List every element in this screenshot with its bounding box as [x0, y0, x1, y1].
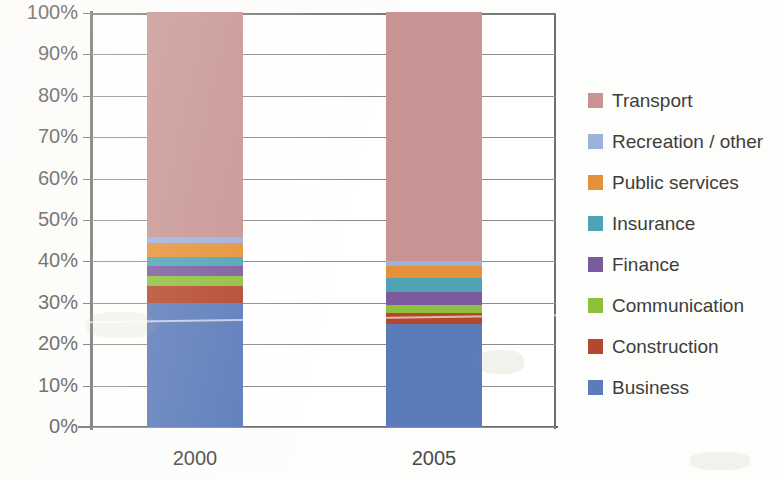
legend-swatch-icon-transport — [588, 93, 603, 108]
bar-segment-2005-recreation-other — [386, 261, 482, 266]
y-tick-label: 40% — [0, 250, 78, 270]
y-tick-label: 10% — [0, 375, 78, 395]
bar-segment-2000-business — [147, 302, 243, 427]
bar-segment-2000-transport — [147, 12, 243, 236]
bar-series-container — [91, 13, 556, 427]
bar-segment-2005-public-services — [386, 265, 482, 278]
y-tick-label-text: 90% — [4, 43, 78, 63]
y-tick-label-text: 30% — [4, 292, 78, 312]
y-tick-label-text: 10% — [4, 375, 78, 395]
bar-segment-2000-communication — [147, 275, 243, 286]
legend-swatch-icon-public-services — [588, 175, 603, 190]
y-tick-label-text: 80% — [4, 85, 78, 105]
legend-label-recreation-other: Recreation / other — [612, 132, 763, 152]
y-tick-label-text: 50% — [4, 209, 78, 229]
legend-item-construction[interactable]: Construction — [588, 326, 784, 367]
y-tick-label: 70% — [0, 126, 78, 146]
chart-legend: TransportRecreation / otherPublic servic… — [588, 80, 784, 408]
y-tick-label-text: 70% — [4, 126, 78, 146]
bar-segment-2005-business — [386, 323, 482, 427]
legend-item-transport[interactable]: Transport — [588, 80, 784, 121]
bar-segment-2000-insurance — [147, 257, 243, 266]
legend-swatch-icon-finance — [588, 257, 603, 272]
legend-label-construction: Construction — [612, 337, 719, 357]
bar-segment-2000-recreation-other — [147, 236, 243, 243]
bar-segment-2005-transport — [386, 12, 482, 261]
legend-label-transport: Transport — [612, 91, 693, 111]
legend-label-business: Business — [612, 378, 689, 398]
legend-item-communication[interactable]: Communication — [588, 285, 784, 326]
bar-2005 — [386, 13, 482, 427]
legend-swatch-icon-insurance — [588, 216, 603, 231]
y-tick-label: 20% — [0, 333, 78, 353]
y-tick-label: 80% — [0, 85, 78, 105]
legend-swatch-icon-construction — [588, 339, 603, 354]
y-tick-mark-0 — [83, 427, 92, 428]
x-tick-label-2005: 2005 — [384, 447, 484, 469]
legend-label-public-services: Public services — [612, 173, 739, 193]
legend-item-insurance[interactable]: Insurance — [588, 203, 784, 244]
x-tick-label-2000: 2000 — [145, 447, 245, 469]
y-tick-label: 60% — [0, 168, 78, 188]
bar-segment-2005-insurance — [386, 277, 482, 292]
y-tick-label: 90% — [0, 43, 78, 63]
legend-swatch-icon-recreation-other — [588, 134, 603, 149]
legend-item-public-services[interactable]: Public services — [588, 162, 784, 203]
stacked-bar-chart: 100%90%80%70%60%50%40%30%20%10%0% 200020… — [0, 0, 784, 479]
gridline-0 — [91, 427, 556, 428]
y-tick-label-text: 100% — [4, 2, 78, 22]
legend-label-communication: Communication — [612, 296, 744, 316]
legend-label-insurance: Insurance — [612, 214, 695, 234]
y-tick-label: 100% — [0, 2, 78, 22]
y-tick-label: 50% — [0, 209, 78, 229]
y-tick-label: 30% — [0, 292, 78, 312]
legend-swatch-icon-communication — [588, 298, 603, 313]
legend-label-finance: Finance — [612, 255, 680, 275]
legend-item-recreation-other[interactable]: Recreation / other — [588, 121, 784, 162]
bar-segment-2005-communication — [386, 304, 482, 313]
legend-swatch-icon-business — [588, 380, 603, 395]
legend-item-finance[interactable]: Finance — [588, 244, 784, 285]
bar-segment-2000-finance — [147, 265, 243, 276]
y-tick-label-text: 20% — [4, 333, 78, 353]
y-tick-label-text: 40% — [4, 250, 78, 270]
bar-segment-2000-construction — [147, 286, 243, 303]
bar-segment-2000-public-services — [147, 242, 243, 257]
bar-segment-2005-finance — [386, 292, 482, 305]
legend-item-business[interactable]: Business — [588, 367, 784, 408]
y-tick-label-text: 0% — [4, 416, 78, 436]
scan-artifact-smudge — [690, 452, 750, 470]
y-tick-label: 0% — [0, 416, 78, 436]
y-tick-label-text: 60% — [4, 168, 78, 188]
bar-segment-2005-construction — [386, 313, 482, 324]
bar-2000 — [147, 13, 243, 427]
